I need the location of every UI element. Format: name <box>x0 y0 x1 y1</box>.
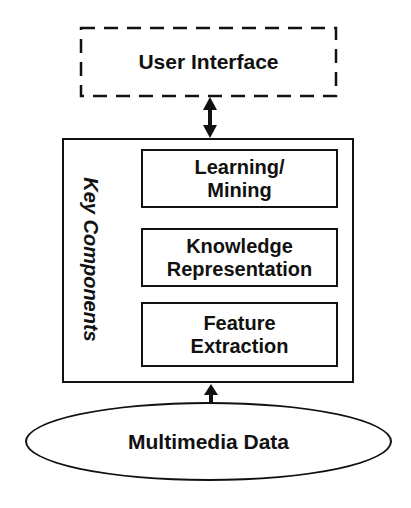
component-label-line2: Mining <box>194 179 284 201</box>
component-knowledge-representation: Knowledge Representation <box>141 228 338 287</box>
bidirectional-arrow-icon <box>203 97 217 138</box>
component-label-line1: Feature <box>191 312 289 334</box>
multimedia-data-label: Multimedia Data <box>128 430 289 454</box>
component-label-line2: Extraction <box>191 335 289 357</box>
component-label-line2: Representation <box>167 258 313 280</box>
component-label-line1: Learning/ <box>194 156 284 178</box>
key-components-title: Key Components <box>79 177 102 341</box>
component-feature-extraction: Feature Extraction <box>141 302 338 367</box>
up-arrow-icon <box>204 384 218 403</box>
user-interface-box: User Interface <box>80 27 337 97</box>
multimedia-data-ellipse: Multimedia Data <box>25 402 392 481</box>
component-label-line1: Knowledge <box>167 235 313 257</box>
user-interface-label: User Interface <box>138 50 278 74</box>
key-components-title-wrap: Key Components <box>70 148 110 370</box>
component-learning-mining: Learning/ Mining <box>141 149 338 208</box>
